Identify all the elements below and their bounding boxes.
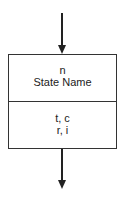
incoming-arrow-head-icon — [58, 45, 66, 54]
state-divider — [9, 101, 116, 102]
outgoing-arrow-line — [61, 149, 63, 181]
state-name: State Name — [9, 76, 116, 88]
state-number: n — [9, 64, 116, 76]
outgoing-arrow-head-icon — [58, 180, 66, 189]
state-body-line-1: t, c — [9, 112, 116, 124]
state-body-line-2: r, i — [9, 124, 116, 136]
state-header: n State Name — [9, 64, 116, 88]
state-box: n State Name t, c r, i — [8, 54, 117, 149]
state-body: t, c r, i — [9, 112, 116, 136]
incoming-arrow-line — [61, 13, 63, 46]
